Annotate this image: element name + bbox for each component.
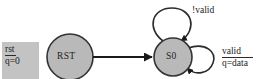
reset-condition-numerator: rst	[5, 45, 16, 56]
reset-condition-label: rst q=0	[5, 45, 21, 66]
state-label-s0: S0	[166, 51, 177, 61]
transition-label-not-valid: !valid	[192, 5, 214, 15]
transition-label-valid: valid q=data	[222, 47, 253, 68]
reset-condition-denominator: q=0	[5, 56, 21, 67]
self-loop-top-arc	[153, 8, 191, 41]
fsm-diagram-canvas: rst q=0 RST S0 !valid valid q=data	[0, 0, 263, 79]
state-label-rst: RST	[57, 51, 75, 61]
transition-label-valid-denominator: q=data	[222, 58, 249, 69]
transition-label-valid-numerator: valid	[222, 47, 253, 58]
